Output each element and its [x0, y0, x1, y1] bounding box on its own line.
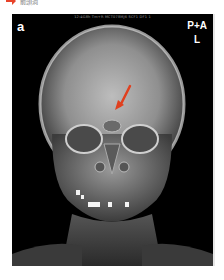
image-border	[213, 14, 215, 266]
side-marker: L	[187, 33, 207, 47]
dicom-header-text: 12:4G8h Tm+R MCT078MJ6 SCF1 DF1 1	[12, 15, 213, 19]
view-marker: P+A	[187, 19, 207, 33]
red-arrow-icon	[6, 0, 16, 5]
panel-label: a	[17, 19, 24, 34]
caption-text: 前頭洞	[20, 0, 38, 6]
skull-radiograph	[12, 14, 213, 266]
figure-caption: 前頭洞	[6, 0, 38, 6]
xray-image: 12:4G8h Tm+R MCT078MJ6 SCF1 DF1 1 a P+A …	[12, 14, 213, 266]
orientation-markers: P+A L	[187, 19, 207, 47]
